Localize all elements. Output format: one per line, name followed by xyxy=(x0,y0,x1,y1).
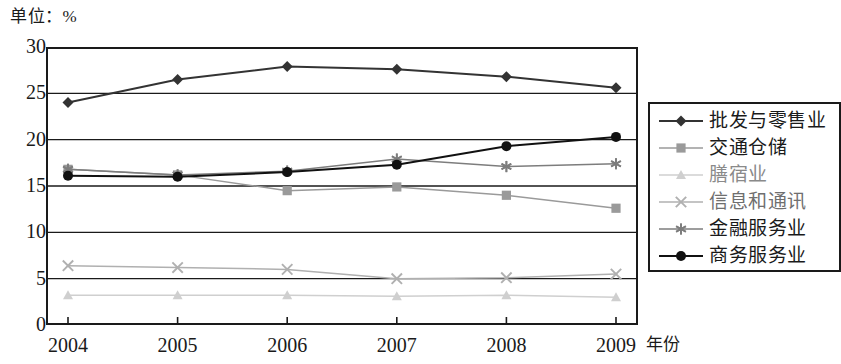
x-axis-tick-label: 2006 xyxy=(267,334,307,357)
legend-item-label: 金融服务业 xyxy=(709,219,807,238)
x-axis-tick-label: 2005 xyxy=(158,334,198,357)
legend-item[interactable]: 交通仓储 xyxy=(658,134,839,161)
legend-item[interactable]: 商务服务业 xyxy=(658,242,839,269)
legend-item-label: 批发与零售业 xyxy=(709,111,826,130)
square-marker xyxy=(658,138,704,158)
y-axis-tick-label: 20 xyxy=(6,129,46,149)
x-axis-title: 年份 xyxy=(646,330,680,355)
y-axis-tick-label: 25 xyxy=(6,82,46,102)
legend-item-label: 商务服务业 xyxy=(709,246,807,265)
triangle-marker xyxy=(658,165,704,185)
y-axis-tick-label: 30 xyxy=(6,36,46,56)
y-axis-tick-label: 10 xyxy=(6,221,46,241)
legend-item[interactable]: 批发与零售业 xyxy=(658,107,839,134)
legend-item[interactable]: 金融服务业 xyxy=(658,215,839,242)
diamond-marker xyxy=(658,111,704,131)
circle-marker xyxy=(658,246,704,266)
x-marker xyxy=(658,192,704,212)
y-axis-tick-labels: 302520151050 xyxy=(0,0,46,364)
y-axis-tick-label: 5 xyxy=(6,268,46,288)
chart-figure: 单位：% 302520151050 2004200520062007200820… xyxy=(0,0,841,364)
x-axis-tick-label: 2009 xyxy=(596,334,636,357)
diamond-marker xyxy=(676,115,687,126)
circle-marker xyxy=(676,251,686,261)
chart-legend: 批发与零售业交通仓储膳宿业信息和通讯金融服务业商务服务业 xyxy=(648,102,841,272)
plot-area xyxy=(46,47,638,325)
square-marker xyxy=(676,143,685,152)
legend-item-label: 交通仓储 xyxy=(709,138,787,157)
y-axis-tick-label: 15 xyxy=(6,175,46,195)
x-axis-tick-label: 2008 xyxy=(486,334,526,357)
legend-item[interactable]: 信息和通讯 xyxy=(658,188,839,215)
legend-item[interactable]: 膳宿业 xyxy=(658,161,839,188)
x-axis-tick-label: 2004 xyxy=(48,334,88,357)
asterisk-marker xyxy=(658,219,704,239)
y-axis-tick-label: 0 xyxy=(6,314,46,334)
legend-item-label: 信息和通讯 xyxy=(709,192,807,211)
x-axis-tick-label: 2007 xyxy=(377,334,417,357)
legend-item-label: 膳宿业 xyxy=(709,165,768,184)
